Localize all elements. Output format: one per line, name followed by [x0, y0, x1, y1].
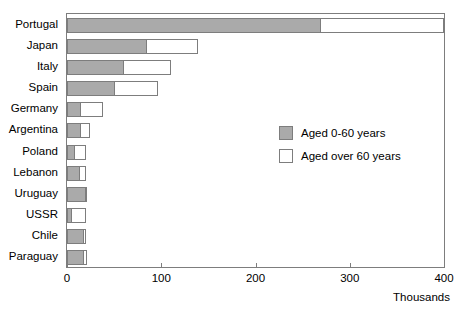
bar-segment-aged-0-60 [67, 145, 74, 160]
y-axis-label-poland: Poland [22, 146, 58, 158]
bar-segment-aged-over-60 [123, 60, 171, 75]
y-axis-label-ussr: USSR [26, 209, 58, 221]
bar-segment-aged-0-60 [67, 102, 80, 117]
bar-segment-aged-over-60 [83, 250, 87, 265]
y-axis-label-chile: Chile [32, 230, 58, 242]
x-axis-unit-label: Thousands [393, 291, 450, 303]
y-axis-label-argentina: Argentina [9, 124, 58, 136]
y-axis-label-lebanon: Lebanon [13, 167, 58, 179]
bar-segment-aged-over-60 [320, 18, 444, 33]
bar-segment-aged-0-60 [67, 229, 83, 244]
bar-segment-aged-0-60 [67, 60, 123, 75]
bar-segment-aged-over-60 [83, 229, 86, 244]
x-axis-tick [444, 263, 445, 268]
legend-label-aged-0-60: Aged 0-60 years [301, 127, 385, 139]
chart-legend: Aged 0-60 years Aged over 60 years [279, 124, 429, 170]
y-axis-label-japan: Japan [27, 40, 58, 52]
bar-segment-aged-over-60 [80, 123, 89, 138]
legend-item-old: Aged over 60 years [279, 147, 429, 165]
x-axis-tick [256, 263, 257, 268]
bar-segment-aged-0-60 [67, 123, 80, 138]
bar-segment-aged-over-60 [74, 145, 86, 160]
y-axis-label-spain: Spain [29, 82, 58, 94]
bar-segment-aged-0-60 [67, 39, 146, 54]
bar-segment-aged-over-60 [85, 187, 87, 202]
x-axis-tick [161, 263, 162, 268]
x-axis-tick-label: 100 [141, 272, 181, 284]
bar-segment-aged-over-60 [146, 39, 198, 54]
bar-segment-aged-0-60 [67, 166, 79, 181]
legend-item-young: Aged 0-60 years [279, 124, 429, 142]
y-axis-label-italy: Italy [37, 61, 58, 73]
y-axis-category-labels: PortugalJapanItalySpainGermanyArgentinaP… [0, 0, 62, 315]
bar-segment-aged-0-60 [67, 81, 114, 96]
bar-segment-aged-0-60 [67, 187, 85, 202]
bar-segment-aged-0-60 [67, 250, 83, 265]
x-axis-tick-label: 300 [330, 272, 370, 284]
legend-swatch-aged-over-60-icon [279, 149, 293, 163]
bar-segment-aged-over-60 [71, 208, 86, 223]
bar-segment-aged-0-60 [67, 18, 320, 33]
x-axis-tick [350, 263, 351, 268]
x-axis-tick-label: 0 [47, 272, 87, 284]
bar-segment-aged-over-60 [114, 81, 158, 96]
legend-label-aged-over-60: Aged over 60 years [301, 150, 401, 162]
bar-segment-aged-over-60 [79, 166, 86, 181]
y-axis-label-germany: Germany [11, 103, 58, 115]
horizontal-stacked-bar-chart: PortugalJapanItalySpainGermanyArgentinaP… [0, 0, 460, 315]
x-axis-tick-label: 400 [424, 272, 460, 284]
legend-swatch-aged-0-60-icon [279, 126, 293, 140]
y-axis-label-portugal: Portugal [15, 19, 58, 31]
bar-segment-aged-over-60 [80, 102, 103, 117]
x-axis-tick [67, 263, 68, 268]
x-axis-tick-label: 200 [236, 272, 276, 284]
y-axis-label-paraguay: Paraguay [9, 251, 58, 263]
y-axis-label-uruguay: Uruguay [15, 188, 58, 200]
